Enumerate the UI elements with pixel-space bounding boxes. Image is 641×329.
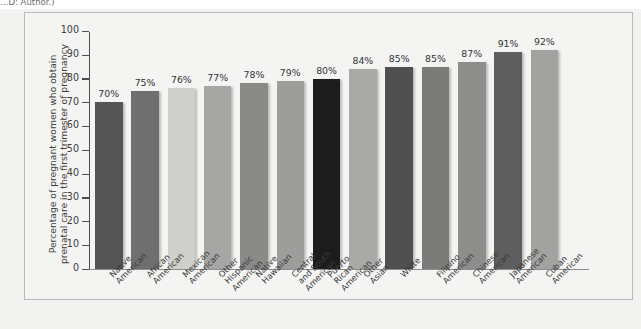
y-tick: 10 <box>82 245 89 246</box>
y-tick: 80 <box>82 78 89 79</box>
y-tick: 0 <box>82 269 89 270</box>
y-tick-label: 100 <box>61 24 79 35</box>
bar-value-label: 78% <box>244 69 265 80</box>
y-tick-label: 80 <box>67 72 79 83</box>
bar-value-label: 91% <box>498 38 519 49</box>
bar-value-label: 85% <box>425 53 446 64</box>
y-tick: 40 <box>82 174 89 175</box>
bar-value-label: 76% <box>171 74 192 85</box>
y-tick: 20 <box>82 221 89 222</box>
bar-value-label: 70% <box>98 88 119 99</box>
bar-value-label: 75% <box>135 77 156 88</box>
y-tick: 100 <box>82 31 89 32</box>
y-tick-label: 70 <box>67 96 79 107</box>
y-tick-label: 10 <box>67 238 79 249</box>
y-axis-title: Percentage of pregnant women who obtain … <box>36 29 58 279</box>
bar-value-label: 79% <box>280 67 301 78</box>
caption-fragment: …D: Author.) <box>0 0 200 8</box>
bar-value-label: 87% <box>461 48 482 59</box>
y-tick-label: 20 <box>67 215 79 226</box>
y-tick-label: 30 <box>67 191 79 202</box>
bar-value-label: 84% <box>352 55 373 66</box>
y-tick: 50 <box>82 150 89 151</box>
bar-slot: 70% <box>95 31 123 269</box>
bar-value-label: 92% <box>534 36 555 47</box>
chart-page: …D: Author.) Percentage of pregnant wome… <box>0 0 641 329</box>
bar-value-label: 77% <box>207 72 228 83</box>
y-tick: 70 <box>82 102 89 103</box>
y-tick-label: 40 <box>67 167 79 178</box>
y-tick: 30 <box>82 197 89 198</box>
y-tick: 90 <box>82 55 89 56</box>
y-tick-label: 0 <box>73 262 79 273</box>
bar <box>95 102 123 269</box>
bar-value-label: 85% <box>389 53 410 64</box>
figure-panel: Percentage of pregnant women who obtain … <box>0 9 641 329</box>
x-axis-labels: Native AmericanAfrican AmericanMexican A… <box>89 273 609 329</box>
y-tick: 60 <box>82 126 89 127</box>
y-tick-label: 60 <box>67 119 79 130</box>
bar-value-label: 80% <box>316 65 337 76</box>
y-tick-label: 90 <box>67 48 79 59</box>
y-tick-label: 50 <box>67 143 79 154</box>
